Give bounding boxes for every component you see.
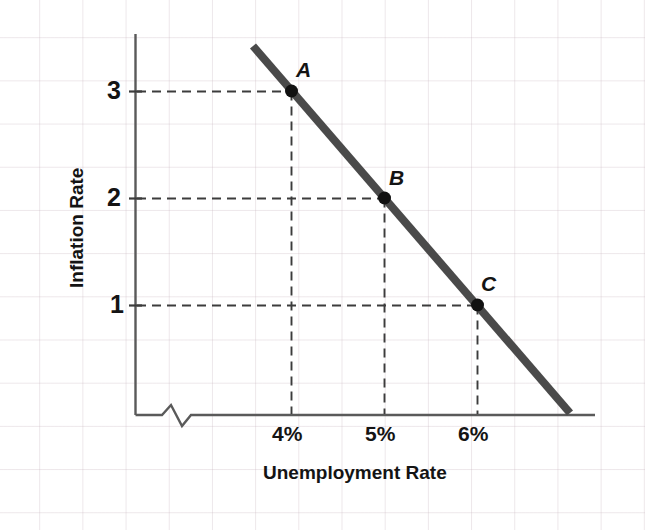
phillips-curve-line — [253, 46, 570, 413]
x-axis-title: Unemployment Rate — [263, 462, 447, 484]
phillips-curve-plot — [0, 0, 645, 530]
point-label-a: A — [296, 58, 311, 82]
y-tick-label-3: 3 — [107, 76, 121, 105]
x-tick-label-5pct: 5% — [365, 422, 395, 446]
x-tick-label-4pct: 4% — [272, 422, 302, 446]
x-tick-label-6pct: 6% — [458, 422, 488, 446]
y-tick-label-1: 1 — [110, 290, 124, 319]
point-label-b: B — [389, 166, 404, 190]
y-axis-title: Inflation Rate — [66, 168, 88, 288]
chart-figure: 3 2 1 4% 5% 6% A B C Inflation Rate Unem… — [0, 0, 645, 530]
data-point-b — [378, 192, 391, 205]
point-label-c: C — [481, 272, 496, 296]
data-point-c — [471, 299, 484, 312]
y-tick-label-2: 2 — [107, 183, 121, 212]
data-point-a — [285, 85, 298, 98]
